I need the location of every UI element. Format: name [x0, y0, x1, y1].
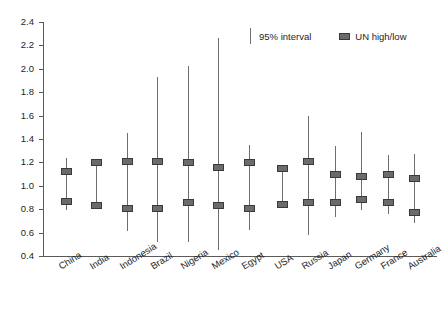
- x-axis-category-label-india: India: [88, 252, 111, 271]
- y-axis-tick-label: 0.8: [0, 204, 34, 214]
- confidence-interval-line: [96, 162, 97, 205]
- un-low-marker: [122, 205, 133, 212]
- un-high-marker: [244, 159, 255, 166]
- x-axis-category-label-mexico: Mexico: [210, 247, 241, 271]
- y-tick: [39, 45, 43, 46]
- y-axis-line: [43, 22, 44, 256]
- un-high-marker: [409, 175, 420, 182]
- legend-label-interval: 95% interval: [259, 31, 311, 42]
- un-high-marker: [330, 171, 341, 178]
- un-low-marker: [213, 202, 224, 209]
- y-axis-tick-label: 0.6: [0, 228, 34, 238]
- y-axis-tick-label: 1.4: [0, 134, 34, 144]
- y-tick: [39, 116, 43, 117]
- y-tick: [39, 22, 43, 23]
- un-high-marker: [61, 168, 72, 175]
- confidence-interval-line: [335, 146, 336, 217]
- un-low-marker: [183, 199, 194, 206]
- y-tick: [39, 186, 43, 187]
- un-high-marker: [213, 164, 224, 171]
- un-low-marker: [152, 205, 163, 212]
- un-low-marker: [91, 202, 102, 209]
- y-axis-tick-label: 0.4: [0, 251, 34, 261]
- un-high-marker: [356, 173, 367, 180]
- un-low-marker: [356, 196, 367, 203]
- un-low-marker: [244, 205, 255, 212]
- y-axis-tick-label: 2.0: [0, 64, 34, 74]
- confidence-interval-line: [188, 66, 189, 242]
- x-axis-category-label-nigeria: Nigeria: [179, 247, 210, 271]
- y-tick: [39, 92, 43, 93]
- un-low-marker: [61, 198, 72, 205]
- x-axis-category-label-egypt: Egypt: [240, 250, 266, 271]
- x-axis-category-label-australia: Australia: [406, 243, 443, 271]
- legend-interval-icon: [250, 28, 251, 44]
- un-high-marker: [277, 165, 288, 172]
- chart-root: 95% interval UN high/low 2.42.22.01.81.6…: [0, 0, 446, 334]
- x-axis-category-label-russia: Russia: [300, 248, 330, 272]
- confidence-interval-line: [127, 133, 128, 231]
- y-axis-tick-label: 1.6: [0, 111, 34, 121]
- un-low-marker: [330, 199, 341, 206]
- y-tick: [39, 256, 43, 257]
- un-high-marker: [152, 158, 163, 165]
- un-high-marker: [183, 159, 194, 166]
- un-high-marker: [303, 158, 314, 165]
- un-high-marker: [91, 159, 102, 166]
- y-tick: [39, 139, 43, 140]
- un-high-marker: [122, 158, 133, 165]
- un-low-marker: [303, 199, 314, 206]
- un-low-marker: [383, 199, 394, 206]
- un-low-marker: [277, 201, 288, 208]
- y-tick: [39, 209, 43, 210]
- confidence-interval-line: [249, 145, 250, 230]
- confidence-interval-line: [218, 38, 219, 250]
- un-low-marker: [409, 209, 420, 216]
- legend-square-icon: [339, 33, 350, 40]
- x-axis-category-label-brazil: Brazil: [149, 250, 174, 271]
- y-axis-tick-label: 2.4: [0, 17, 34, 27]
- y-tick: [39, 233, 43, 234]
- x-axis-category-label-china: China: [57, 250, 83, 272]
- y-tick: [39, 162, 43, 163]
- un-high-marker: [383, 171, 394, 178]
- confidence-interval-line: [308, 116, 309, 235]
- y-axis-tick-label: 1.0: [0, 181, 34, 191]
- y-axis-tick-label: 1.8: [0, 87, 34, 97]
- legend-label-unhighlow: UN high/low: [355, 31, 406, 42]
- chart-legend: 95% interval UN high/low: [250, 28, 407, 44]
- y-axis-tick-label: 1.2: [0, 157, 34, 167]
- y-tick: [39, 69, 43, 70]
- y-axis-tick-label: 2.2: [0, 40, 34, 50]
- x-axis-category-label-japan: Japan: [326, 249, 353, 271]
